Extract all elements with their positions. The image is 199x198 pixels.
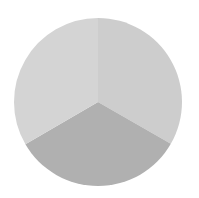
- pie-chart-svg: [0, 0, 199, 198]
- pie-chart: [0, 0, 199, 198]
